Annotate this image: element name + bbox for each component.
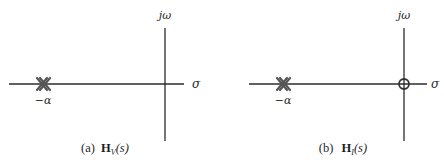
imaginary-axis-label: jω (395, 9, 410, 22)
real-axis-label: σ (431, 77, 440, 91)
pole-label: −α (275, 94, 292, 107)
panel-a: jω σ −α (a) HV(s) (9, 9, 201, 157)
real-axis-label: σ (192, 77, 201, 91)
caption-b: (b) HI(s) (319, 141, 367, 157)
pole-zero-figure: jω σ −α (a) HV(s) jω σ −α (b) HI(s) (0, 0, 444, 164)
caption-a: (a) HV(s) (81, 141, 129, 157)
panel-b: jω σ −α (b) HI(s) (249, 9, 440, 157)
imaginary-axis-label: jω (156, 9, 171, 22)
pole-label: −α (35, 94, 52, 107)
